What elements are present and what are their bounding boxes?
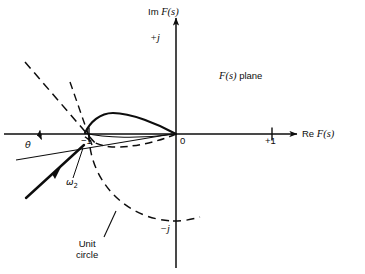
unit-circle-arc-tail — [173, 217, 200, 221]
unit-circle-arc — [89, 134, 173, 221]
omega2-subscript: 2 — [74, 182, 78, 190]
unit-circle-group — [89, 134, 200, 237]
theta-label: θ — [25, 140, 31, 151]
real-axis-label-prefix: Re — [302, 128, 317, 139]
imag-axis-label-func: F(s) — [161, 6, 179, 17]
theta-ray-thin — [16, 134, 172, 160]
omega2-symbol: ω — [66, 177, 74, 187]
real-axis-label-func: F(s) — [317, 128, 335, 139]
plane-label-suffix: plane — [237, 70, 263, 81]
origin-label: 0 — [180, 136, 185, 147]
unit-circle-label: Unit circle — [76, 239, 98, 260]
tick-label-minus-j: −j — [160, 223, 170, 235]
omega2-label: ω2 — [66, 177, 78, 191]
unit-circle-label-line2: circle — [76, 250, 98, 261]
tick-label-plus-j: +j — [150, 32, 160, 44]
nyquist-locus-group — [84, 113, 176, 147]
tick-label-plus-one: +1 — [265, 136, 276, 147]
imaginary-axis-label: Im F(s) — [148, 6, 179, 18]
unit-circle-leader — [104, 211, 116, 237]
imag-axis-label-prefix: Im — [148, 6, 161, 17]
real-axis-label: Re F(s) — [302, 128, 334, 140]
nyquist-figure: Re F(s) Im F(s) +j −j −1 +1 0 F(s) plane… — [0, 0, 365, 274]
asymptote-dashed-long — [25, 62, 95, 143]
nyquist-locus-solid-upper — [85, 113, 176, 134]
plane-label: F(s) plane — [219, 70, 262, 82]
tick-label-minus-one: −1 — [81, 136, 92, 147]
theta-angle-group — [40, 131, 42, 140]
plane-label-func: F(s) — [219, 70, 237, 81]
